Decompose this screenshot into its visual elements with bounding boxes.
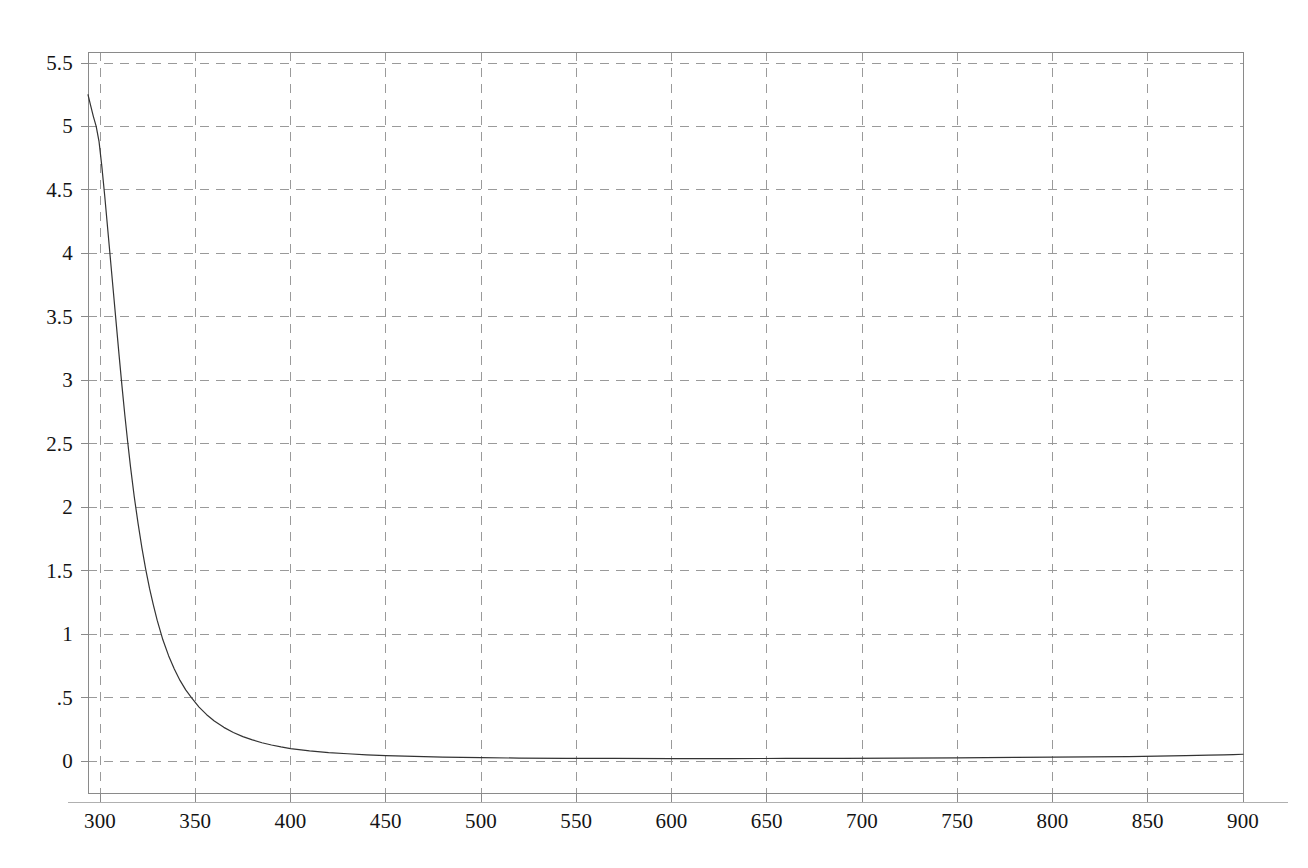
- x-tick-label: 600: [655, 809, 687, 834]
- x-tick-label: 350: [179, 809, 211, 834]
- y-tick-label: 3: [0, 368, 73, 393]
- chart-figure: 0.511.522.533.544.555.5 3003504004505005…: [0, 0, 1308, 868]
- x-tick-label: 750: [941, 809, 973, 834]
- x-tick-label: 700: [846, 809, 878, 834]
- x-tick-label: 500: [465, 809, 497, 834]
- data-series-group: [88, 95, 1243, 759]
- y-tick-label: 3.5: [0, 304, 73, 329]
- y-tick-label: 0: [0, 749, 73, 774]
- x-tick-label: 450: [370, 809, 402, 834]
- x-tick-label: 800: [1036, 809, 1068, 834]
- y-tick-label: 2.5: [0, 431, 73, 456]
- x-tick-label: 850: [1132, 809, 1164, 834]
- plot-area: [0, 0, 1308, 868]
- grid-lines: [88, 52, 1243, 793]
- x-tick-label: 650: [751, 809, 783, 834]
- y-tick-label: 1: [0, 622, 73, 647]
- y-tick-label: .5: [0, 685, 73, 710]
- y-tick-label: 2: [0, 495, 73, 520]
- x-tick-label: 900: [1227, 809, 1259, 834]
- tick-marks: [81, 63, 1243, 802]
- y-tick-label: 4.5: [0, 177, 73, 202]
- x-tick-label: 300: [84, 809, 116, 834]
- x-tick-label: 400: [274, 809, 306, 834]
- y-tick-label: 4: [0, 241, 73, 266]
- x-tick-label: 550: [560, 809, 592, 834]
- y-tick-label: 5: [0, 114, 73, 139]
- y-tick-label: 1.5: [0, 558, 73, 583]
- y-tick-label: 5.5: [0, 51, 73, 76]
- plot-frame: [68, 52, 1288, 802]
